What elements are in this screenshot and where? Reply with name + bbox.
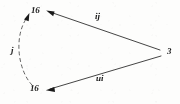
edge-bottom-line [50, 56, 161, 89]
edge-label-left-dashed: j [11, 46, 14, 55]
diagram-canvas [0, 0, 180, 104]
edge-bottom-arrowhead [46, 87, 55, 92]
node-label-top-left: 16 [31, 6, 40, 15]
edge-left-dashed-path [19, 19, 32, 85]
graph-diagram-figure: 16 16 3 ij ui j [0, 0, 180, 104]
edge-left-dashed-arrowhead [24, 13, 29, 21]
edge-top-arrowhead [46, 11, 54, 17]
edge-label-bottom: ui [96, 74, 104, 83]
edge-top-line [50, 12, 160, 50]
edge-left-dashed [19, 13, 32, 85]
edge-label-top: ij [95, 12, 100, 21]
node-label-right: 3 [167, 47, 171, 56]
node-label-bottom-left: 16 [30, 84, 39, 93]
edge-top [46, 11, 160, 50]
